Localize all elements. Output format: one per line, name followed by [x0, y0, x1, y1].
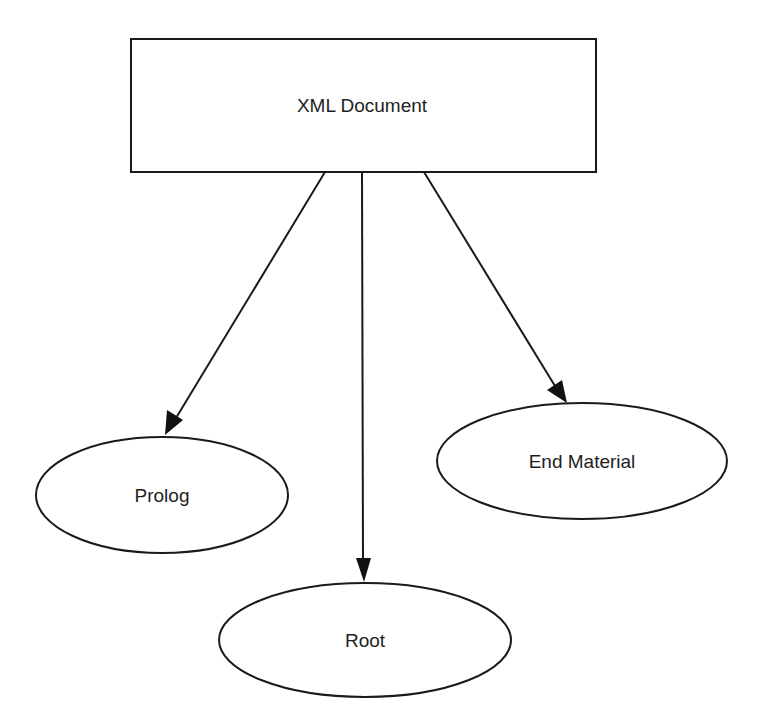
- node-prolog: Prolog: [36, 437, 288, 553]
- arrowhead-icon: [547, 380, 567, 403]
- end-material-label: End Material: [529, 451, 636, 472]
- node-end-material: End Material: [437, 403, 727, 519]
- prolog-label: Prolog: [135, 485, 190, 506]
- node-root: Root: [219, 583, 511, 697]
- arrowhead-icon: [356, 558, 371, 582]
- arrowhead-icon: [165, 410, 183, 435]
- edge-line: [176, 172, 325, 418]
- edge-line: [424, 172, 555, 386]
- edge-to-end-material: [424, 172, 567, 403]
- node-xml-document: XML Document: [131, 39, 596, 172]
- diagram-canvas: XML Document Prolog Root End Material: [0, 0, 761, 727]
- edge-line: [362, 172, 363, 562]
- root-label: Root: [345, 630, 386, 651]
- edge-to-prolog: [165, 172, 325, 435]
- xml-document-label: XML Document: [297, 95, 428, 116]
- edge-to-root: [356, 172, 371, 582]
